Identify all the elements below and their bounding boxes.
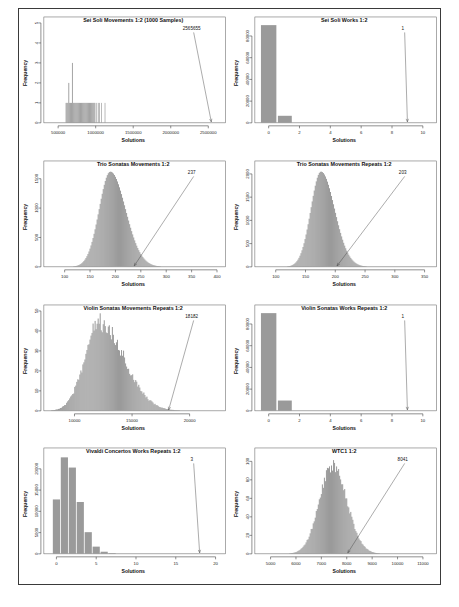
svg-text:Solutions: Solutions — [121, 424, 145, 430]
svg-text:0: 0 — [34, 265, 39, 268]
svg-text:0: 0 — [34, 552, 39, 555]
svg-text:Sei Soli Works 1:2: Sei Soli Works 1:2 — [321, 17, 367, 23]
svg-text:0: 0 — [34, 409, 39, 412]
svg-text:2: 2 — [34, 81, 39, 84]
svg-text:80: 80 — [245, 477, 250, 482]
chart-panel-sei-soli-movements-1-2-1000-samples: 5000001000000150000020000002500000Soluti… — [19, 9, 230, 153]
svg-text:5000: 5000 — [265, 561, 275, 566]
svg-text:100: 100 — [61, 274, 69, 279]
svg-text:500000: 500000 — [51, 130, 66, 135]
svg-text:8: 8 — [390, 417, 393, 422]
svg-text:8000: 8000 — [341, 561, 351, 566]
svg-text:1: 1 — [34, 101, 39, 104]
svg-text:2000: 2000 — [245, 168, 250, 178]
svg-text:30: 30 — [34, 347, 39, 352]
svg-text:0: 0 — [245, 265, 250, 268]
svg-text:5: 5 — [95, 561, 98, 566]
svg-text:1000: 1000 — [245, 215, 250, 225]
svg-text:Trio Sonatas Movements 1:2: Trio Sonatas Movements 1:2 — [97, 161, 169, 167]
svg-text:20: 20 — [213, 561, 218, 566]
svg-text:Violin Sonatas Movements Repea: Violin Sonatas Movements Repeats 1:2 — [84, 305, 183, 311]
svg-text:Solutions: Solutions — [121, 281, 145, 287]
svg-text:60000: 60000 — [245, 51, 250, 63]
chart-panel-violin-sonatas-movements-repeats-1-2: 100001500020000Solutions01020304050Frequ… — [19, 297, 230, 441]
svg-text:10: 10 — [34, 387, 39, 392]
svg-text:8: 8 — [390, 130, 393, 135]
svg-text:Frequency: Frequency — [22, 60, 28, 86]
svg-text:500: 500 — [245, 239, 250, 247]
svg-text:6000: 6000 — [291, 561, 301, 566]
svg-text:150: 150 — [301, 274, 309, 279]
svg-text:1000000: 1000000 — [87, 130, 104, 135]
panel-grid: 5000001000000150000020000002500000Soluti… — [19, 9, 440, 584]
svg-text:20000: 20000 — [34, 463, 39, 475]
svg-text:250: 250 — [137, 274, 145, 279]
svg-text:400: 400 — [213, 274, 221, 279]
svg-text:350: 350 — [188, 274, 196, 279]
svg-text:Solutions: Solutions — [332, 281, 356, 287]
svg-text:Sei Soli Movements 1:2 (1000 S: Sei Soli Movements 1:2 (1000 Samples) — [83, 17, 183, 23]
svg-text:2: 2 — [298, 130, 301, 135]
svg-text:15000: 15000 — [34, 484, 39, 496]
svg-text:10000: 10000 — [391, 561, 403, 566]
svg-text:0: 0 — [267, 417, 270, 422]
svg-text:250: 250 — [361, 274, 369, 279]
svg-text:40000: 40000 — [245, 360, 250, 372]
svg-text:0: 0 — [267, 130, 270, 135]
svg-text:4: 4 — [329, 130, 332, 135]
svg-text:20: 20 — [34, 367, 39, 372]
svg-text:100: 100 — [245, 457, 250, 465]
svg-text:Violin Sonatas Works Repeats 1: Violin Sonatas Works Repeats 1:2 — [301, 305, 387, 311]
svg-text:1500000: 1500000 — [125, 130, 142, 135]
svg-text:4: 4 — [329, 417, 332, 422]
svg-text:1500: 1500 — [34, 173, 39, 183]
svg-text:80000: 80000 — [245, 29, 250, 41]
svg-text:3: 3 — [190, 457, 193, 462]
svg-text:6: 6 — [359, 130, 362, 135]
svg-text:15000: 15000 — [126, 417, 138, 422]
svg-text:3: 3 — [34, 61, 39, 64]
svg-text:20000: 20000 — [245, 382, 250, 394]
chart-panel-violin-sonatas-works-repeats-1-2: 0246810Solutions020000400006000080000Fre… — [230, 297, 441, 441]
svg-text:Frequency: Frequency — [232, 347, 238, 373]
chart-panel-wtc1-1-2: 500060007000800090001000011000Solutions0… — [230, 440, 441, 584]
svg-text:10: 10 — [420, 130, 425, 135]
svg-text:0: 0 — [245, 552, 250, 555]
svg-text:1: 1 — [401, 26, 404, 31]
chart-panel-trio-sonatas-movements-repeats-1-2: 100150200250300350Solutions0500100015002… — [230, 153, 441, 297]
svg-text:300: 300 — [391, 274, 399, 279]
svg-text:6: 6 — [359, 417, 362, 422]
svg-text:10000: 10000 — [69, 417, 81, 422]
chart-panel-sei-soli-works-1-2: 0246810Solutions020000400006000080000Fre… — [230, 9, 441, 153]
svg-text:4: 4 — [34, 41, 39, 44]
svg-text:150: 150 — [86, 274, 94, 279]
chart-panel-vivaldi-concertos-works-repeats-1-2: 05101520Solutions05000100001500020000Fre… — [19, 440, 230, 584]
svg-text:2500000: 2500000 — [200, 130, 217, 135]
svg-text:8041: 8041 — [397, 457, 408, 462]
svg-text:40: 40 — [34, 327, 39, 332]
svg-text:Frequency: Frequency — [232, 60, 238, 86]
svg-text:Frequency: Frequency — [22, 203, 28, 229]
svg-text:350: 350 — [421, 274, 429, 279]
svg-text:100: 100 — [272, 274, 280, 279]
svg-text:15: 15 — [173, 561, 178, 566]
svg-text:10: 10 — [420, 417, 425, 422]
svg-text:80000: 80000 — [245, 317, 250, 329]
svg-text:0: 0 — [55, 561, 58, 566]
svg-text:203: 203 — [398, 170, 406, 175]
svg-text:20: 20 — [245, 533, 250, 538]
svg-text:300: 300 — [163, 274, 171, 279]
svg-text:200: 200 — [331, 274, 339, 279]
svg-text:40000: 40000 — [245, 73, 250, 85]
svg-text:Solutions: Solutions — [332, 568, 356, 574]
svg-text:1000: 1000 — [34, 202, 39, 212]
svg-text:1: 1 — [401, 313, 404, 318]
svg-text:200: 200 — [112, 274, 120, 279]
svg-text:Solutions: Solutions — [332, 137, 356, 143]
svg-text:Solutions: Solutions — [121, 568, 145, 574]
svg-text:Frequency: Frequency — [232, 491, 238, 517]
svg-text:7000: 7000 — [316, 561, 326, 566]
svg-text:20000: 20000 — [184, 417, 196, 422]
svg-text:Solutions: Solutions — [121, 137, 145, 143]
svg-text:10: 10 — [134, 561, 139, 566]
